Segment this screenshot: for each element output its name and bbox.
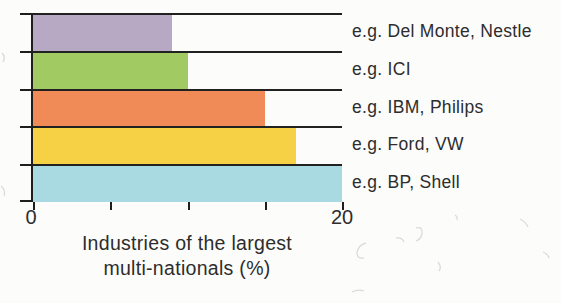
bar-chart: Industries of the largest multi-national… [0, 0, 561, 303]
y-tick [20, 89, 31, 91]
x-tick-label: 0 [25, 206, 36, 229]
bar-row [33, 51, 342, 89]
bar-row [33, 126, 342, 164]
bar-row [33, 164, 342, 202]
bar-example-label: e.g. Del Monte, Nestle [352, 21, 532, 42]
x-axis-title-line1: Industries of the largest [37, 231, 337, 256]
bar-row [33, 89, 342, 127]
bar-row [33, 13, 342, 51]
x-axis-title: Industries of the largest multi-national… [37, 231, 337, 281]
y-tick [20, 13, 31, 15]
x-tick [265, 202, 267, 210]
bar [33, 91, 265, 127]
plot-area [31, 13, 342, 202]
bar-example-label: e.g. Ford, VW [352, 134, 464, 155]
bar [33, 128, 296, 164]
bar-example-label: e.g. IBM, Philips [352, 97, 484, 118]
bar-example-label: e.g. ICI [352, 59, 411, 80]
y-tick [20, 164, 31, 166]
x-axis-title-line2: multi-nationals (%) [37, 256, 337, 281]
y-tick [20, 200, 31, 202]
x-tick [110, 202, 112, 210]
x-tick [188, 202, 190, 210]
bar [33, 166, 342, 202]
bar-example-label: e.g. BP, Shell [352, 172, 460, 193]
bar [33, 53, 188, 89]
y-tick [20, 126, 31, 128]
x-tick-label: 20 [331, 206, 353, 229]
y-tick [20, 51, 31, 53]
bar [33, 15, 172, 51]
